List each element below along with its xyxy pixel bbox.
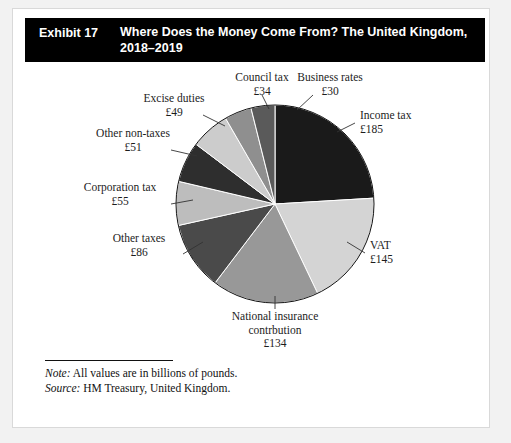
pie-chart: Council tax £34 Business rates £30 Excis… (25, 64, 485, 354)
pie-label-excise-duties-amount: £49 (129, 106, 219, 120)
exhibit-figure: Exhibit 17 Where Does the Money Come Fro… (0, 0, 511, 443)
footnote-divider (45, 360, 173, 361)
pie-label-national-insurance-name-line2: contrbution (214, 324, 336, 338)
pie-label-other-non-taxes: Other non-taxes £51 (83, 127, 183, 154)
pie-label-vat: VAT £145 (370, 239, 440, 266)
pie-label-national-insurance: National insurance contrbution £134 (214, 310, 336, 351)
pie-slice-group (176, 105, 374, 303)
footnote-note-key: Note: (45, 367, 71, 379)
pie-label-other-taxes: Other taxes £86 (97, 232, 181, 259)
pie-label-vat-amount: £145 (370, 253, 440, 267)
pie-label-other-non-taxes-amount: £51 (83, 141, 183, 155)
pie-label-income-tax: Income tax £185 (360, 109, 450, 136)
pie-label-other-non-taxes-name: Other non-taxes (96, 127, 170, 139)
pie-label-income-tax-name: Income tax (360, 109, 411, 121)
footnote-note: Note: All values are in billions of poun… (45, 366, 345, 381)
pie-label-other-taxes-amount: £86 (97, 246, 181, 260)
pie-label-excise-duties-name: Excise duties (144, 92, 205, 104)
pie-label-national-insurance-name-line1: National insurance (232, 310, 319, 322)
pie-label-corporation-tax: Corporation tax £55 (69, 181, 171, 208)
pie-label-business-rates-amount: £30 (280, 85, 380, 99)
pie-label-business-rates: Business rates £30 (280, 71, 380, 98)
footnote-source: Source: HM Treasury, United Kingdom. (45, 381, 345, 396)
pie-label-national-insurance-amount: £134 (214, 337, 336, 351)
exhibit-number: Exhibit 17 (39, 24, 98, 41)
footnote-note-text: All values are in billions of pounds. (71, 367, 238, 379)
pie-slice-income-tax (275, 105, 374, 204)
exhibit-title-bar: Exhibit 17 Where Does the Money Come Fro… (25, 18, 485, 62)
pie-label-corporation-tax-amount: £55 (69, 195, 171, 209)
pie-label-corporation-tax-name: Corporation tax (84, 181, 157, 193)
pie-label-income-tax-amount: £185 (360, 123, 450, 137)
footnote-source-key: Source: (45, 382, 80, 394)
pie-label-excise-duties: Excise duties £49 (129, 92, 219, 119)
leader-line-income-tax (337, 123, 355, 132)
footnote-source-text: HM Treasury, United Kingdom. (80, 382, 230, 394)
pie-label-other-taxes-name: Other taxes (113, 232, 166, 244)
page-title: Where Does the Money Come From? The Unit… (120, 24, 475, 56)
figure-footnotes: Note: All values are in billions of poun… (45, 360, 345, 395)
pie-label-business-rates-name: Business rates (297, 71, 362, 83)
pie-label-vat-name: VAT (370, 239, 391, 251)
